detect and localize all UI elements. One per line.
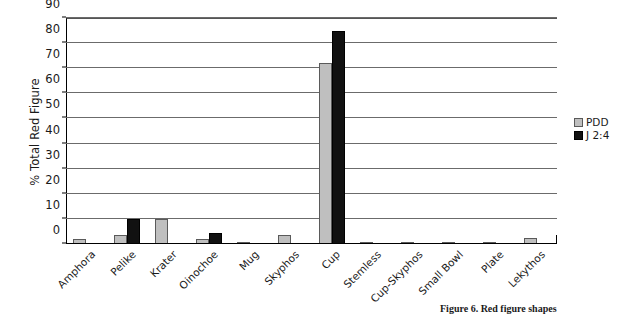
y-tick-label: 20 [45, 173, 60, 187]
x-axis-end-tick [556, 235, 557, 244]
bar [155, 219, 168, 244]
legend-label: J 2:4 [586, 130, 609, 141]
x-tick-label-text: Lekythos [506, 248, 548, 290]
bar [332, 31, 345, 244]
bar-group [148, 18, 189, 244]
chart-figure: % Total Red Figure 0102030405060708090 A… [0, 0, 627, 315]
legend-swatch-icon [574, 118, 583, 127]
y-axis-title: % Total Red Figure [28, 37, 42, 227]
bar-group [107, 18, 148, 244]
x-tick-label: Mug [236, 248, 260, 272]
x-tick-label: Skyphos [262, 248, 301, 287]
legend-item: PDD [574, 116, 626, 128]
x-tick-label: Pelike [108, 248, 138, 278]
x-tick-label-text: Pelike [108, 248, 138, 278]
x-tick-label: Plate [479, 248, 506, 275]
y-tick-label: 80 [45, 22, 60, 36]
y-tick-label: 30 [45, 148, 60, 162]
x-tick-label-text: Mug [236, 248, 260, 272]
bar-group [189, 18, 230, 244]
legend-swatch-icon [574, 131, 583, 140]
legend-item: J 2:4 [574, 129, 626, 141]
bar [319, 63, 332, 244]
legend-label: PDD [586, 117, 609, 128]
bar-group [475, 18, 516, 244]
bar-group [434, 18, 475, 244]
bar-group [393, 18, 434, 244]
bar-group [352, 18, 393, 244]
plot-area: 0102030405060708090 [66, 18, 557, 244]
x-tick-label: Cup [319, 248, 342, 271]
x-axis-line [66, 243, 557, 244]
x-tick-label: Lekythos [506, 248, 548, 290]
x-tick-label-text: Amphora [55, 248, 97, 290]
x-tick-label: Stemless [341, 248, 383, 290]
y-tick-label: 50 [45, 97, 60, 111]
x-tick-label: Oinochoe [176, 248, 220, 292]
x-tick-label-text: Cup [319, 248, 342, 271]
y-tick-label: 40 [45, 123, 60, 137]
bar-group [66, 18, 107, 244]
x-tick-label: Amphora [55, 248, 97, 290]
x-tick-label-text: Krater [147, 248, 178, 279]
x-axis-labels: AmphoraPelikeKraterOinochoeMugSkyphosCup… [66, 246, 557, 306]
y-tick-label: 10 [45, 198, 60, 212]
x-tick-label: Krater [147, 248, 178, 279]
bar [127, 219, 140, 244]
y-tick-label: 90 [45, 0, 60, 11]
x-tick-label-text: Stemless [341, 248, 383, 290]
legend: PDDJ 2:4 [574, 116, 626, 142]
y-tick-label: 0 [53, 223, 60, 237]
y-tick-label: 70 [45, 47, 60, 61]
bar-group [271, 18, 312, 244]
figure-caption: Figure 6. Red figure shapes [440, 303, 557, 314]
bars-layer [66, 18, 557, 244]
y-tick-label: 60 [45, 72, 60, 86]
bar-group [516, 18, 557, 244]
bar-group [312, 18, 353, 244]
x-tick-label-text: Skyphos [262, 248, 301, 287]
x-tick-label-text: Oinochoe [176, 248, 220, 292]
bar-group [230, 18, 271, 244]
x-tick-label-text: Plate [479, 248, 506, 275]
